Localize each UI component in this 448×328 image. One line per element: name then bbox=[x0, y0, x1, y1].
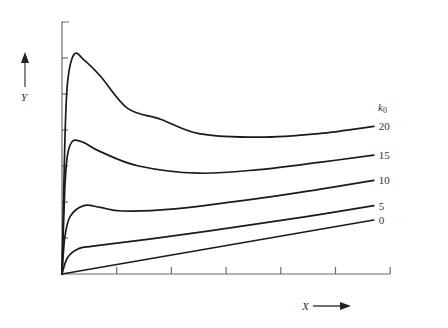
series-label-10: 10 bbox=[379, 174, 391, 186]
series-label-20: 20 bbox=[379, 120, 391, 132]
curve-k0-15 bbox=[62, 140, 374, 274]
series-label-5: 5 bbox=[379, 200, 385, 212]
x-axis-arrow-icon bbox=[313, 302, 351, 310]
curve-k0-0 bbox=[62, 220, 374, 274]
curve-k0-20 bbox=[62, 53, 374, 274]
series-label-15: 15 bbox=[379, 149, 391, 161]
y-axis-label: Y bbox=[21, 91, 29, 103]
curve-k0-10 bbox=[62, 180, 374, 274]
axis-lines bbox=[62, 22, 390, 274]
chart: 20151050 Y X k0 bbox=[0, 0, 448, 328]
curve-k0-5 bbox=[62, 206, 374, 274]
y-axis-arrow-icon bbox=[21, 52, 29, 87]
series-label-0: 0 bbox=[379, 214, 385, 226]
x-axis-label: X bbox=[301, 300, 310, 312]
axes bbox=[62, 22, 390, 274]
legend-title: k0 bbox=[378, 101, 387, 115]
series-labels: 20151050 bbox=[379, 120, 391, 226]
curves bbox=[62, 53, 374, 274]
